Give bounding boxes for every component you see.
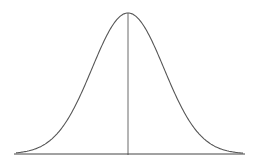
bell-curve [16,13,243,153]
diagram-canvas [0,0,256,166]
bell-curve-figure [0,0,256,166]
